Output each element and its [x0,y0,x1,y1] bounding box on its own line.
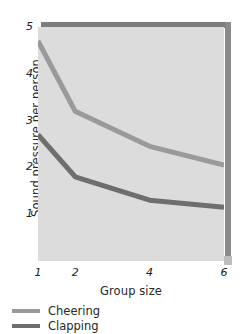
legend-swatch-icon-clapping [12,324,40,328]
chart-legend: CheeringClapping [12,303,152,333]
legend-label: Clapping [48,319,99,333]
series-line-cheering [38,41,224,165]
series-line-clapping [38,135,224,208]
plot-frame-right-shadow [225,22,231,264]
x-tick-label-6: 6 [216,266,232,279]
legend-item-cheering: Cheering [12,303,152,318]
y-tick-label-1: 1 [19,207,33,220]
line-chart-figure: Sound pressure per person 12345 1246 Gro… [0,0,243,334]
x-tick-label-1: 1 [30,266,46,279]
plot-frame-corner-bevel [224,256,232,265]
y-tick-label-4: 4 [19,67,33,80]
y-tick-label-2: 2 [19,160,33,173]
legend-item-clapping: Clapping [12,318,152,333]
y-tick-label-5: 5 [19,20,33,33]
y-tick-label-3: 3 [19,114,33,127]
x-axis-title: Group size [38,284,224,298]
x-tick-label-4: 4 [142,266,158,279]
legend-swatch-icon-cheering [12,309,40,313]
legend-label: Cheering [48,304,100,318]
x-tick-label-2: 2 [67,266,83,279]
plot-series-layer [38,27,224,261]
